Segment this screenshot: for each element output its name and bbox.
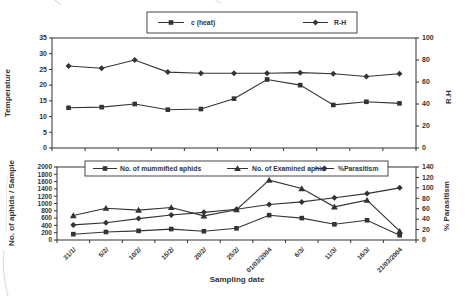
diamond-marker: [198, 70, 204, 76]
scanned-figure-page: 05101520253035020406080100c (heat)R-HTem…: [0, 0, 465, 301]
y-left-tick-label: 5: [43, 129, 47, 136]
triangle-marker: [364, 197, 371, 203]
y-left-tick-label: 0: [48, 236, 52, 243]
series-line: [69, 80, 400, 110]
y-left-tick-label: 15: [39, 97, 47, 104]
legend-label: R-H: [334, 19, 346, 26]
y-right-tick-label: 0: [422, 144, 426, 151]
y-right-axis-title: R.H: [444, 90, 453, 104]
diamond-marker: [330, 71, 336, 77]
square-marker: [298, 83, 303, 88]
y-right-tick-label: 60: [422, 205, 430, 212]
y-left-tick-label: 400: [41, 222, 52, 229]
y-right-tick-label: 120: [422, 174, 434, 181]
square-marker: [99, 105, 104, 110]
y-left-tick-label: 1800: [38, 171, 53, 178]
x-tick-label: 10/2/: [127, 246, 142, 261]
diamond-marker: [66, 63, 72, 69]
square-marker: [299, 216, 304, 221]
square-marker: [365, 218, 370, 223]
y-left-tick-label: 800: [41, 207, 52, 214]
x-tick-label: 31/1/: [62, 246, 77, 261]
y-left-tick-label: 1000: [38, 200, 53, 207]
diamond-marker: [201, 209, 207, 215]
y-right-tick-label: 40: [422, 100, 430, 107]
y-right-tick-label: 60: [422, 78, 430, 85]
square-marker: [66, 105, 71, 110]
diamond-marker: [363, 74, 369, 80]
diamond-marker: [165, 69, 171, 75]
x-tick-label: 5/2/: [97, 246, 110, 259]
legend-label: c (heat): [191, 19, 215, 27]
diamond-marker: [99, 65, 105, 71]
aphid-parasitism-dual-charts: 05101520253035020406080100c (heat)R-HTem…: [0, 0, 465, 301]
square-marker: [71, 232, 76, 237]
x-tick-label: 21/03/2004: [375, 245, 403, 273]
plot-area-border: [52, 38, 416, 148]
y-right-tick-label: 140: [422, 163, 434, 170]
scan-artifact: [55, 0, 61, 5]
diamond-marker: [364, 191, 370, 197]
diamond-marker: [70, 222, 76, 228]
chart-aphids-parasitism: 0200400600800100012001400160018002000020…: [7, 160, 451, 284]
y-left-tick-label: 35: [39, 34, 47, 41]
y-right-tick-label: 20: [422, 122, 430, 129]
y-right-tick-label: 0: [422, 236, 426, 243]
legend-label: %Parasitism: [338, 165, 378, 172]
square-marker: [332, 222, 337, 227]
square-marker: [202, 229, 207, 234]
square-marker: [169, 227, 174, 232]
square-marker: [199, 107, 204, 112]
square-marker: [234, 226, 239, 231]
y-right-tick-label: 40: [422, 215, 430, 222]
y-right-tick-label: 80: [422, 195, 430, 202]
square-marker: [103, 166, 108, 171]
diamond-marker: [168, 212, 174, 218]
x-tick-label: 6/3/: [293, 246, 306, 259]
x-tick-label: 20/2/: [192, 246, 207, 261]
square-marker: [104, 230, 109, 235]
series-line: [73, 215, 399, 235]
y-right-tick-label: 20: [422, 226, 430, 233]
y-left-tick-label: 0: [43, 144, 47, 151]
y-left-tick-label: 25: [39, 66, 47, 73]
y-right-axis-title: % Parasitism: [442, 181, 451, 231]
y-left-tick-label: 30: [39, 50, 47, 57]
diamond-marker: [132, 57, 138, 63]
y-right-tick-label: 100: [422, 184, 434, 191]
x-tick-label: 15/2/: [160, 246, 175, 261]
series-line: [73, 180, 399, 231]
diamond-marker: [264, 70, 270, 76]
diamond-marker: [136, 216, 142, 222]
scan-artifact: [215, 0, 221, 3]
y-left-axis-title: Temperature: [3, 69, 12, 117]
y-left-tick-label: 1200: [38, 193, 53, 200]
y-left-tick-label: 200: [41, 229, 52, 236]
diamond-marker: [231, 70, 237, 76]
y-left-tick-label: 2000: [38, 163, 53, 170]
y-left-tick-label: 1600: [38, 178, 53, 185]
triangle-marker: [266, 177, 273, 183]
legend-label: No. of mummified aphids: [120, 165, 201, 173]
square-marker: [166, 107, 171, 112]
square-marker: [232, 96, 237, 101]
square-marker: [331, 103, 336, 108]
legend-label: No. of Examined aphid: [252, 165, 325, 173]
square-marker: [132, 102, 137, 107]
x-axis-title: Sampling date: [210, 275, 265, 284]
x-tick-label: 16/3/: [356, 246, 371, 261]
square-marker: [136, 229, 141, 234]
y-left-tick-label: 600: [41, 214, 52, 221]
diamond-marker: [103, 220, 109, 226]
y-left-tick-label: 1400: [38, 185, 53, 192]
square-marker: [364, 100, 369, 105]
diamond-marker: [299, 199, 305, 205]
x-tick-label: 25/2/: [225, 246, 240, 261]
square-marker: [265, 77, 270, 82]
y-left-tick-label: 20: [39, 81, 47, 88]
scan-artifact: [3, 250, 8, 296]
y-right-tick-label: 100: [422, 34, 434, 41]
x-tick-label: 01/03/2004: [245, 245, 273, 273]
diamond-marker: [266, 202, 272, 208]
diamond-marker: [397, 185, 403, 191]
